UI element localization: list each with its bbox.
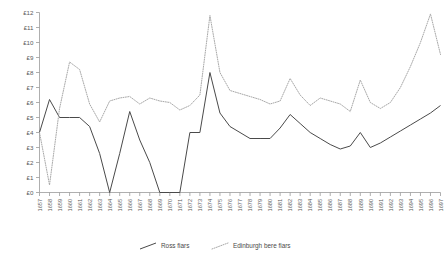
y-axis-tick-label: £8 xyxy=(27,69,34,76)
legend-item-label: Edinburgh bere fiars xyxy=(233,242,291,250)
y-axis-tick-label: £3 xyxy=(27,144,34,151)
x-axis-tick-label: 1661 xyxy=(77,199,83,211)
y-axis-tick-label: £9 xyxy=(27,54,34,61)
x-axis-tick-label: 1690 xyxy=(368,199,374,211)
axes-group: £0£1£2£3£4£5£6£7£8£9£10£11£1216571658165… xyxy=(23,9,444,212)
x-axis-tick-label: 1660 xyxy=(67,199,73,211)
x-axis-tick-label: 1680 xyxy=(267,199,273,211)
y-axis-tick-label: £2 xyxy=(27,159,34,166)
x-axis-tick-label: 1664 xyxy=(107,199,113,211)
x-axis-tick-label: 1669 xyxy=(157,199,163,211)
y-axis-tick-label: £4 xyxy=(27,129,34,136)
x-axis-tick-label: 1685 xyxy=(317,199,323,211)
x-axis-tick-label: 1697 xyxy=(438,199,444,211)
solid-line-swatch-icon xyxy=(140,243,156,249)
y-axis-tick-label: £0 xyxy=(27,189,34,196)
x-axis-tick-label: 1659 xyxy=(57,199,63,211)
y-axis-tick-label: £11 xyxy=(24,24,34,31)
chart-figure: £0£1£2£3£4£5£6£7£8£9£10£11£1216571658165… xyxy=(0,0,447,263)
y-axis-tick-label: £1 xyxy=(27,174,34,181)
x-axis-tick-label: 1672 xyxy=(187,199,193,211)
y-axis-tick-label: £10 xyxy=(23,39,34,46)
x-axis-tick-label: 1662 xyxy=(87,199,93,211)
x-axis-tick-label: 1658 xyxy=(47,199,53,211)
y-axis-tick-label: £12 xyxy=(23,9,34,16)
x-axis-tick-label: 1671 xyxy=(177,199,183,211)
dotted-line-swatch-icon xyxy=(212,243,228,249)
x-axis-tick-label: 1675 xyxy=(217,199,223,211)
x-axis-tick-label: 1676 xyxy=(227,199,233,211)
x-axis-tick-label: 1677 xyxy=(237,199,243,211)
y-axis-tick-label: £6 xyxy=(27,99,34,106)
x-axis-tick-label: 1678 xyxy=(247,199,253,211)
x-axis-tick-label: 1691 xyxy=(378,199,384,211)
x-axis-tick-label: 1693 xyxy=(398,199,404,211)
x-axis-tick-label: 1670 xyxy=(167,199,173,211)
x-axis-tick-label: 1673 xyxy=(197,199,203,211)
x-axis-tick-label: 1679 xyxy=(257,199,263,211)
x-axis-tick-label: 1695 xyxy=(418,199,424,211)
x-axis-tick-label: 1694 xyxy=(408,199,414,211)
x-axis-tick-label: 1674 xyxy=(207,199,213,211)
series-line-2 xyxy=(40,14,441,185)
x-axis-tick-label: 1667 xyxy=(137,199,143,211)
x-axis-tick-label: 1681 xyxy=(277,199,283,211)
x-axis-tick-label: 1663 xyxy=(97,199,103,211)
x-axis-tick-label: 1692 xyxy=(388,199,394,211)
legend-item-label: Ross fiars xyxy=(161,242,189,249)
x-axis-tick-label: 1689 xyxy=(358,199,364,211)
series-line-1 xyxy=(40,73,441,193)
legend-group: Ross fiarsEdinburgh bere fiars xyxy=(140,242,291,250)
x-axis-tick-label: 1688 xyxy=(347,199,353,211)
x-axis-tick-label: 1684 xyxy=(307,199,313,211)
x-axis-tick-label: 1668 xyxy=(147,199,153,211)
x-axis-tick-label: 1666 xyxy=(127,199,133,211)
x-axis-tick-label: 1696 xyxy=(428,199,434,211)
x-axis-tick-label: 1683 xyxy=(297,199,303,211)
y-axis-tick-label: £5 xyxy=(27,114,34,121)
x-axis-tick-label: 1657 xyxy=(37,199,43,211)
x-axis-tick-label: 1682 xyxy=(287,199,293,211)
x-axis-tick-label: 1686 xyxy=(327,199,333,211)
x-axis-tick-label: 1687 xyxy=(337,199,343,211)
chart-canvas: £0£1£2£3£4£5£6£7£8£9£10£11£1216571658165… xyxy=(0,0,447,263)
x-axis-tick-label: 1665 xyxy=(117,199,123,211)
series-group xyxy=(40,14,441,193)
y-axis-tick-label: £7 xyxy=(27,84,34,91)
